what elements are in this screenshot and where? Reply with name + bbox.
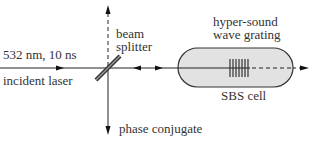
bidirectional-beam — [108, 66, 178, 71]
grating-label-line2: wave grating — [213, 28, 281, 42]
incident-laser-beam — [0, 66, 108, 71]
hyper-sound-grating — [230, 59, 248, 77]
transmitted-beam-up — [106, 5, 111, 66]
phase-conjugate-beam — [106, 68, 111, 135]
incident-laser-label: incident laser — [3, 74, 73, 88]
phase-conjugate-label: phase conjugate — [119, 122, 202, 136]
beam-splitter-label-line2: splitter — [116, 40, 152, 54]
transmitted-beam-out — [293, 66, 309, 71]
sbs-cell-label: SBS cell — [221, 89, 266, 103]
laser-params-label: 532 nm, 10 ns — [3, 48, 77, 62]
